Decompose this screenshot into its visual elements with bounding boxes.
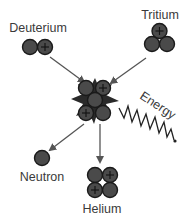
helium-neutron bbox=[103, 183, 118, 198]
arrow-deuterium-to-fusion bbox=[50, 57, 84, 82]
deuterium-neutron bbox=[23, 40, 38, 55]
fused-nucleus-group bbox=[71, 78, 119, 124]
neutron bbox=[35, 151, 50, 166]
helium-group: Helium bbox=[83, 168, 122, 217]
tritium-label: Tritium bbox=[141, 8, 179, 22]
helium-neutron bbox=[88, 168, 103, 183]
neutron-label: Neutron bbox=[20, 170, 65, 184]
wave-end-dot bbox=[173, 139, 176, 142]
nucleon bbox=[96, 106, 111, 121]
arrow-tritium-to-fusion bbox=[111, 58, 146, 83]
tritium-group: Tritium bbox=[141, 8, 179, 52]
helium-label: Helium bbox=[83, 202, 122, 216]
arrow-fusion-to-neutron bbox=[50, 124, 84, 150]
deuterium-label: Deuterium bbox=[9, 21, 67, 35]
nucleon bbox=[88, 93, 103, 108]
energy-group: Energy bbox=[119, 89, 179, 143]
fusion-diagram: Deuterium Tritium bbox=[0, 0, 188, 217]
energy-label: Energy bbox=[137, 89, 178, 123]
deuterium-group: Deuterium bbox=[9, 21, 67, 55]
neutron-group: Neutron bbox=[20, 151, 65, 185]
